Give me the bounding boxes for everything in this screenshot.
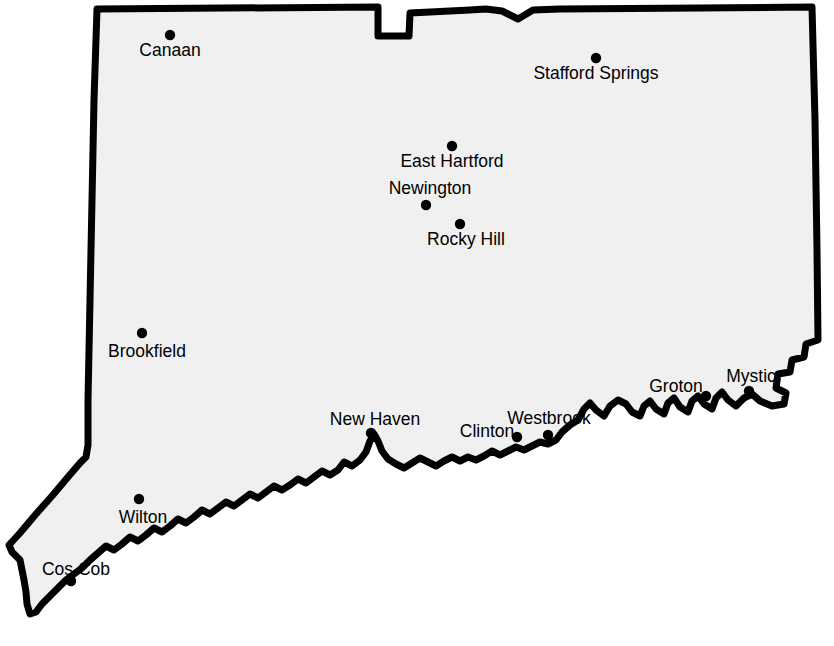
city-label: Groton xyxy=(649,376,703,396)
map-canvas: CanaanStafford SpringsEast HartfordNewin… xyxy=(0,0,834,646)
city-label: Clinton xyxy=(460,421,514,441)
city-dot-icon[interactable] xyxy=(455,219,465,229)
city-label: Canaan xyxy=(139,40,200,60)
city-dot-icon[interactable] xyxy=(421,200,431,210)
city-dot-icon[interactable] xyxy=(165,30,175,40)
connecticut-map: CanaanStafford SpringsEast HartfordNewin… xyxy=(0,0,834,646)
city-label: New Haven xyxy=(330,409,420,429)
city-dot-icon[interactable] xyxy=(366,428,376,438)
city-dot-icon[interactable] xyxy=(591,53,601,63)
city-label: Wilton xyxy=(119,507,168,527)
city-dot-icon[interactable] xyxy=(134,494,144,504)
city-label: Stafford Springs xyxy=(533,63,658,83)
city-label: Rocky Hill xyxy=(427,229,505,249)
city-label: Cos Cob xyxy=(42,559,110,579)
city-label: Newington xyxy=(389,178,472,198)
city-label: East Hartford xyxy=(400,151,503,171)
city-label: Mystic xyxy=(726,366,776,386)
city-dot-icon[interactable] xyxy=(543,430,553,440)
city-dot-icon[interactable] xyxy=(447,141,457,151)
city-label: Brookfield xyxy=(108,341,186,361)
city-dot-icon[interactable] xyxy=(137,328,147,338)
city-dot-icon[interactable] xyxy=(744,386,754,396)
city-label: Westbrook xyxy=(507,408,591,428)
